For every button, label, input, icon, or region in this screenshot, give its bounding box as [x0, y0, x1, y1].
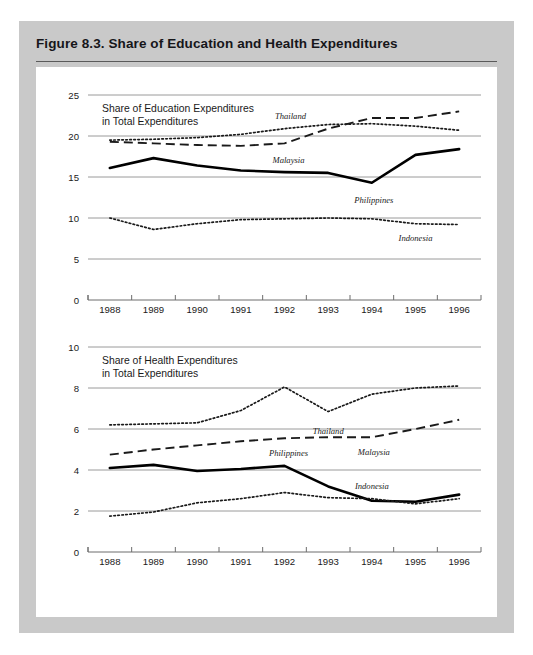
y-axis-tick-label: 8 [74, 383, 79, 394]
chart-education-svg: 0510152025198819891990199119921993199419… [36, 67, 497, 329]
series-label-indonesia: Indonesia [354, 481, 389, 491]
x-axis-tick-label: 1995 [405, 304, 426, 315]
y-axis-tick-label: 10 [68, 213, 79, 224]
series-label-philippines: Philippines [268, 448, 309, 458]
chart-caption-line1: Share of Health Expenditures [102, 355, 238, 366]
x-axis-tick-label: 1991 [230, 304, 251, 315]
x-axis-tick-label: 1988 [99, 556, 120, 567]
x-axis-tick-label: 1994 [361, 556, 383, 567]
y-axis-tick-label: 20 [68, 131, 79, 142]
series-label-thailand: Thailand [275, 111, 307, 121]
series-label-malaysia: Malaysia [272, 155, 305, 165]
y-axis-tick-label: 15 [68, 172, 79, 183]
x-axis-tick-label: 1995 [405, 556, 426, 567]
figure-container: Figure 8.3. Share of Education and Healt… [0, 0, 533, 655]
series-label-philippines: Philippines [353, 195, 394, 205]
chart-health-svg: 0246810198819891990199119921993199419951… [36, 329, 497, 589]
x-axis-tick-label: 1990 [186, 304, 207, 315]
y-axis-tick-label: 0 [74, 295, 79, 306]
y-axis-tick-label: 10 [68, 342, 79, 353]
x-axis-tick-label: 1993 [317, 556, 338, 567]
x-axis-tick-label: 1993 [317, 304, 338, 315]
x-axis-tick-label: 1991 [230, 556, 251, 567]
x-axis-tick-label: 1990 [186, 556, 207, 567]
chart-health-expenditures: 0246810198819891990199119921993199419951… [36, 329, 497, 589]
chart-caption-line2: in Total Expenditures [102, 368, 198, 379]
y-axis-tick-label: 0 [74, 547, 79, 558]
y-axis-tick-label: 4 [74, 465, 80, 476]
x-axis-tick-label: 1996 [448, 304, 469, 315]
y-axis-tick-label: 2 [74, 506, 79, 517]
chart-caption-line2: in Total Expenditures [102, 116, 198, 127]
figure-plot-area: 0510152025198819891990199119921993199419… [36, 67, 497, 617]
series-line-indonesia [110, 218, 459, 229]
y-axis-tick-label: 5 [74, 254, 79, 265]
y-axis-tick-label: 25 [68, 90, 79, 101]
chart-education-expenditures: 0510152025198819891990199119921993199419… [36, 67, 497, 329]
figure-title: Figure 8.3. Share of Education and Healt… [36, 36, 496, 58]
title-divider [36, 61, 497, 62]
series-line-thailand [110, 386, 459, 425]
chart-caption-line1: Share of Education Expenditures [102, 103, 254, 114]
x-axis-tick-label: 1989 [143, 556, 164, 567]
y-axis-tick-label: 6 [74, 424, 79, 435]
x-axis-tick-label: 1992 [274, 556, 295, 567]
series-line-indonesia [110, 493, 459, 517]
series-line-philippines [110, 149, 459, 183]
series-label-indonesia: Indonesia [398, 233, 433, 243]
x-axis-tick-label: 1989 [143, 304, 164, 315]
x-axis-tick-label: 1988 [99, 304, 120, 315]
x-axis-tick-label: 1994 [361, 304, 383, 315]
series-label-thailand: Thailand [313, 426, 345, 436]
x-axis-tick-label: 1992 [274, 304, 295, 315]
series-label-malaysia: Malaysia [357, 447, 390, 457]
x-axis-tick-label: 1996 [448, 556, 469, 567]
